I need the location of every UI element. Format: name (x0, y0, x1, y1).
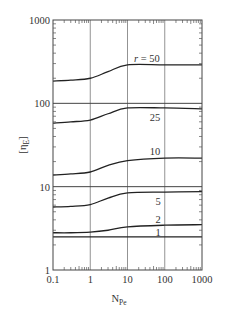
y-tick-label: 10 (40, 182, 51, 193)
y-tick-label: 1000 (29, 15, 50, 26)
tick-labels: 0.111010010001101001000 (29, 15, 213, 285)
x-tick-label: 10 (122, 274, 133, 285)
curve-labels: r = 502510521 (134, 53, 161, 238)
y-axis-label: [ηE] (17, 136, 31, 153)
chart: 0.111010010001101001000 r = 502510521 NP… (0, 0, 226, 319)
curve-label: 1 (155, 227, 160, 238)
x-tick-label: 1 (88, 274, 93, 285)
curve-label: 2 (155, 214, 160, 225)
curve-label: r = 50 (134, 53, 160, 64)
y-tick-label: 1 (45, 265, 50, 276)
x-tick-label: 1000 (192, 274, 213, 285)
x-tick-label: 100 (157, 274, 173, 285)
x-axis-label: NPe (111, 293, 127, 307)
curve-label: 25 (150, 112, 161, 123)
y-tick-label: 100 (34, 98, 50, 109)
curve-label: 10 (150, 146, 161, 157)
curve-label: 5 (155, 196, 160, 207)
